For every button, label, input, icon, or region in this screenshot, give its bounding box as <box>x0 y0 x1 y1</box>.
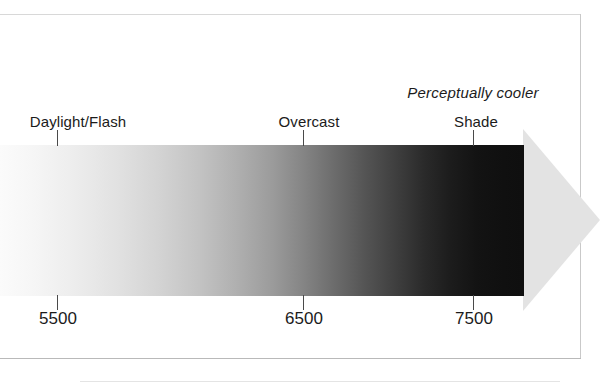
label-daylight-flash: Daylight/Flash <box>30 113 126 130</box>
tick-top-daylight <box>57 130 58 146</box>
page-rule-top <box>0 14 580 15</box>
color-temperature-gradient-bar <box>0 145 524 296</box>
value-7500: 7500 <box>455 310 493 327</box>
perceptually-cooler-annotation: Perceptually cooler <box>407 84 538 101</box>
label-overcast: Overcast <box>279 113 340 130</box>
tick-bottom-7500 <box>473 295 474 310</box>
value-5500: 5500 <box>39 310 77 327</box>
tick-top-overcast <box>303 130 304 146</box>
arrow-head-icon <box>523 129 600 311</box>
page-rule-bottom <box>0 358 581 359</box>
color-temperature-figure: Perceptually cooler Daylight/Flash Overc… <box>0 0 613 387</box>
label-shade: Shade <box>454 113 498 130</box>
page-rule-footer <box>80 381 560 382</box>
tick-top-shade <box>473 130 474 146</box>
tick-bottom-5500 <box>57 295 58 310</box>
tick-bottom-6500 <box>303 295 304 310</box>
value-6500: 6500 <box>285 310 323 327</box>
